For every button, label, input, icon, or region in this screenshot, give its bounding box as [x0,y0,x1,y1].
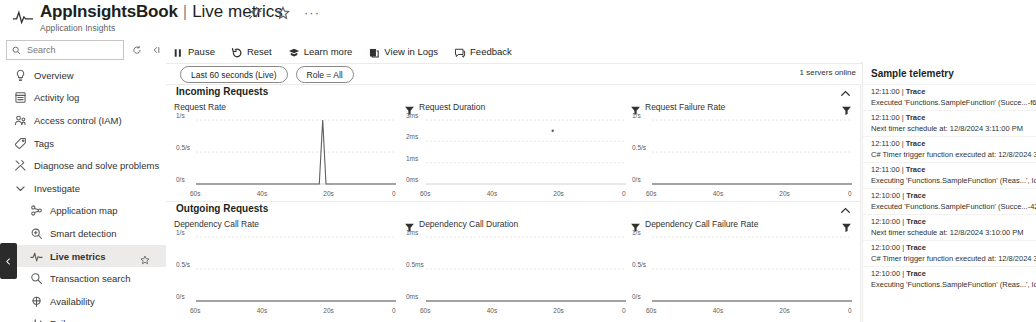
x-axis-tick-label: 0 [392,190,396,197]
title-separator: | [183,2,187,22]
telemetry-kind: Trace [906,269,926,278]
metrics-chart-row: Dependency Call Rate0/s0.5/s1/s60s40s20s… [166,217,860,318]
search-box[interactable] [6,40,124,60]
x-axis-tick-label: 20s [779,190,789,197]
chart-title-row: Dependency Call Failure Rate [630,217,856,231]
pin-icon[interactable] [248,6,262,20]
sidebar-item-application-map[interactable]: Application map [0,200,166,223]
sidebar-item-availability[interactable]: Availability [0,290,166,313]
chart-title-row: Request Duration [404,100,630,114]
sidebar-item-investigate[interactable]: Investigate [0,177,166,200]
y-axis-tick-label: 1/s [176,112,185,119]
application-map-icon [30,204,43,217]
telemetry-row[interactable]: 12:11:00 | TraceC# Timer trigger functio… [863,136,1036,162]
sidebar-search-row [0,40,166,62]
star-icon[interactable] [276,6,290,20]
telemetry-row[interactable]: 12:10:00 | TraceExecuting 'Functions.Sam… [863,266,1036,292]
tag-icon [14,137,27,150]
collapse-icon[interactable] [151,45,161,55]
telemetry-time: 12:10:00 [871,243,900,252]
view-in-logs-button[interactable]: View in Logs [368,45,438,57]
feedback-button[interactable]: Feedback [454,45,512,57]
section-filter-icon[interactable] [841,219,852,230]
y-axis-tick-label: 0/s [632,176,641,183]
sidebar-item-live-metrics[interactable]: Live metrics [0,245,166,268]
y-axis-tick-label: 0/s [176,176,185,183]
sidebar-item-transaction-search[interactable]: Transaction search [0,267,166,290]
y-axis-tick-label: 0/s [176,293,185,300]
sidebar-item-failures[interactable]: Failures [0,313,166,322]
filter-icon[interactable] [404,102,415,113]
telemetry-message: Executing 'Functions.SampleFunction' (Re… [871,176,1036,185]
wrench-icon [14,159,27,172]
y-axis-tick-label: 0.5/s [632,261,646,268]
search-input[interactable] [25,44,121,56]
telemetry-meta: 12:10:00 | Trace [871,269,1036,278]
telemetry-time: 12:10:00 [871,269,900,278]
toolbar-button-label: Pause [188,46,215,57]
filter-icon[interactable] [404,219,415,230]
feedback-icon [454,45,466,57]
sidebar-item-label: Diagnose and solve problems [34,160,159,171]
pause-button[interactable]: Pause [172,45,215,57]
sidebar-collapse-handle[interactable] [0,243,17,279]
x-axis-tick-label: 40s [487,307,497,314]
chart-plot-area: 0/s0.5/s1/s60s40s20s0 [174,114,400,196]
telemetry-row[interactable]: 12:10:00 | TraceC# Timer trigger functio… [863,240,1036,266]
telemetry-meta: 12:10:00 | Trace [871,191,1036,200]
more-options-button[interactable]: ··· [304,8,320,18]
learn-more-button[interactable]: Learn more [288,45,353,57]
telemetry-row[interactable]: 12:10:00 | TraceExecuted 'Functions.Samp… [863,188,1036,214]
header-actions: ··· [248,6,320,20]
y-axis-tick-label: 1/s [632,112,641,119]
chart-title: Dependency Call Duration [419,219,518,229]
telemetry-row[interactable]: 12:11:00 | TraceNext timer schedule at: … [863,110,1036,136]
telemetry-meta: 12:11:00 | Trace [871,87,1036,96]
refresh-icon[interactable] [132,45,142,55]
telemetry-message: Executing 'Functions.SampleFunction' (Re… [871,280,1036,289]
y-axis-tick-label: 0ms [406,176,418,183]
favorite-star-icon[interactable] [140,251,150,261]
reset-button[interactable]: Reset [231,45,272,57]
chevron-left-icon [4,257,13,266]
sidebar-item-diagnose-and-solve-problems[interactable]: Diagnose and solve problems [0,154,166,177]
toolbar-button-label: Feedback [470,46,512,57]
telemetry-row[interactable]: 12:11:00 | TraceExecuting 'Functions.Sam… [863,162,1036,188]
x-axis-tick-label: 60s [420,307,430,314]
telemetry-kind: Trace [906,139,926,148]
filter-icon[interactable] [630,102,641,113]
sidebar-nav: OverviewActivity logAccess control (IAM)… [0,64,166,322]
sidebar-item-tags[interactable]: Tags [0,132,166,155]
x-axis-tick-label: 40s [713,190,723,197]
telemetry-row[interactable]: 12:11:00 | TraceExecuted 'Functions.Samp… [863,84,1036,110]
section-filter-icon[interactable] [841,102,852,113]
telemetry-row[interactable]: 12:10:00 | TraceNext timer schedule at: … [863,214,1036,240]
sidebar-item-label: Availability [50,296,95,307]
telemetry-time: 12:11:00 [871,165,900,174]
live-metrics-toolbar: PauseResetLearn moreView in LogsFeedback [172,41,512,61]
access-control-icon [14,114,27,127]
role-filter-pill[interactable]: Role = All [296,66,354,83]
filter-icon[interactable] [630,219,641,230]
chevron-up-icon[interactable] [839,86,852,99]
metrics-section-title: Incoming Requests [176,86,268,97]
telemetry-kind: Trace [906,165,926,174]
sidebar-item-overview[interactable]: Overview [0,64,166,87]
sidebar-item-activity-log[interactable]: Activity log [0,87,166,110]
sidebar-item-label: Tags [34,138,54,149]
filter-pills: Last 60 seconds (Live) Role = All [180,66,354,83]
chart-plot-area: 0ms0.5ms1ms60s40s20s0 [404,231,630,313]
app-insights-pulse-icon [12,8,34,26]
chart-plot-area: 0/s0.5/s1/s60s40s20s0 [174,231,400,313]
activity-log-icon [14,91,27,104]
y-axis-tick-label: 0.5/s [176,144,190,151]
panel-divider [860,84,861,322]
sample-telemetry-panel[interactable]: Sample telemetry 12:11:00 | TraceExecute… [862,62,1036,322]
chart-title: Request Duration [419,102,485,112]
sidebar-item-label: Investigate [34,183,80,194]
sidebar-item-smart-detection[interactable]: Smart detection [0,222,166,245]
time-range-pill[interactable]: Last 60 seconds (Live) [180,66,288,83]
sidebar-item-access-control-iam[interactable]: Access control (IAM) [0,109,166,132]
reset-icon [231,45,243,57]
chevron-up-icon[interactable] [839,203,852,216]
